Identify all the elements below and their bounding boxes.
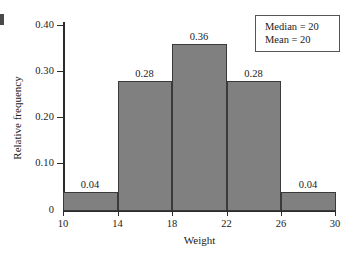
x-tick-label-14: 14 [100, 218, 136, 229]
y-tick-label-000: 0 [10, 205, 54, 216]
y-tick-010 [57, 163, 63, 164]
x-tick-30 [335, 210, 336, 216]
y-tick-040 [57, 25, 63, 26]
y-axis-title: Relative frequency [11, 43, 23, 193]
y-tick-020 [57, 117, 63, 118]
bar-bin-18-22 [172, 44, 227, 211]
x-tick-label-22: 22 [209, 218, 245, 229]
x-tick-26 [281, 210, 282, 216]
x-tick-10 [63, 210, 64, 216]
x-tick-22 [227, 210, 228, 216]
bar-value-label-4: 0.28 [227, 68, 281, 79]
stats-legend-box: Median = 20 Mean = 20 [255, 15, 340, 52]
stats-median: Median = 20 [256, 20, 339, 33]
bar-bin-26-30 [281, 192, 336, 211]
stats-mean: Mean = 20 [256, 33, 339, 46]
x-tick-label-18: 18 [154, 218, 190, 229]
x-tick-18 [172, 210, 173, 216]
bar-bin-10-14 [63, 192, 118, 211]
x-tick-label-10: 10 [45, 218, 81, 229]
bar-bin-22-26 [227, 81, 282, 211]
y-tick-030 [57, 71, 63, 72]
x-tick-14 [118, 210, 119, 216]
corner-registration-mark [0, 14, 4, 25]
histogram-figure: 0.40 0.30 0.20 0.10 0 0.04 0.28 0.36 0.2… [0, 0, 355, 259]
bar-value-label-5: 0.04 [281, 179, 335, 190]
bar-value-label-3: 0.36 [172, 31, 226, 42]
y-tick-label-040: 0.40 [10, 20, 54, 31]
x-tick-label-26: 26 [263, 218, 299, 229]
x-tick-label-30: 30 [317, 218, 353, 229]
bar-bin-14-18 [118, 81, 173, 211]
bar-value-label-2: 0.28 [118, 68, 172, 79]
x-axis-title: Weight [63, 234, 336, 246]
bar-value-label-1: 0.04 [63, 179, 117, 190]
